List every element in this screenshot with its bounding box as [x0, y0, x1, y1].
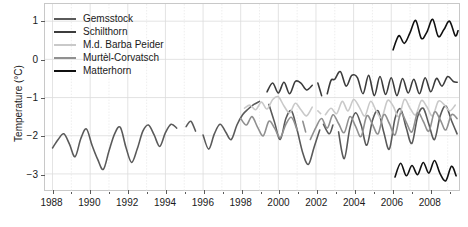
series-0-segment-0: [53, 124, 177, 169]
chart-figure: Temperature (°C) 10−1−2−3 19881990199219…: [0, 0, 468, 227]
series-2-segment-2: [325, 99, 455, 117]
series-0-segment-5: [339, 106, 458, 159]
series-1-segment-1: [318, 83, 322, 96]
legend-swatch-icon: [54, 57, 76, 59]
series-0-segment-1: [186, 121, 195, 131]
series-2-segment-1: [318, 111, 321, 114]
y-tick-label: 1: [8, 15, 38, 26]
x-tick-label: 1996: [183, 197, 223, 208]
legend-swatch-icon: [54, 18, 76, 20]
legend-item-0: Gemsstock: [54, 12, 164, 25]
legend-swatch-icon: [54, 44, 76, 46]
legend-label: M.d. Barba Peider: [83, 39, 164, 50]
series-3-segment-0: [241, 117, 297, 138]
legend-label: Matterhorn: [83, 65, 131, 76]
x-tick-label: 1994: [145, 197, 185, 208]
x-tick-label: 1988: [32, 197, 72, 208]
x-tick-label: 1992: [107, 197, 147, 208]
series-1-segment-2: [327, 71, 457, 95]
series-4-segment-1: [395, 161, 456, 181]
y-tick-label: −1: [8, 92, 38, 103]
legend-item-4: Matterhorn: [54, 64, 164, 77]
y-tick-label: 0: [8, 54, 38, 65]
legend-label: Murtèl-Corvatsch: [83, 52, 159, 63]
x-tick-label: 2004: [334, 197, 374, 208]
legend-item-1: Schilthorn: [54, 25, 164, 38]
legend-label: Schilthorn: [83, 26, 127, 37]
legend-item-2: M.d. Barba Peider: [54, 38, 164, 51]
x-tick-label: 2000: [258, 197, 298, 208]
series-1-segment-0: [267, 81, 312, 94]
y-tick-label: −2: [8, 130, 38, 141]
x-tick-label: 2008: [410, 197, 450, 208]
x-tick-label: 1998: [221, 197, 261, 208]
x-tick-label: 2002: [296, 197, 336, 208]
legend-swatch-icon: [54, 70, 76, 72]
series-0-segment-2: [203, 101, 259, 149]
chart-legend: Gemsstock Schilthorn M.d. Barba Peider M…: [54, 12, 164, 77]
y-tick-label: −3: [8, 169, 38, 180]
y-axis-title: Temperature (°C): [13, 29, 24, 179]
series-4-segment-0: [393, 19, 458, 50]
legend-item-3: Murtèl-Corvatsch: [54, 51, 164, 64]
x-tick-label: 2006: [372, 197, 412, 208]
series-3-segment-1: [303, 121, 306, 132]
series-2-segment-0: [244, 96, 312, 115]
legend-label: Gemsstock: [83, 13, 133, 24]
x-tick-label: 1990: [69, 197, 109, 208]
legend-swatch-icon: [54, 31, 76, 33]
